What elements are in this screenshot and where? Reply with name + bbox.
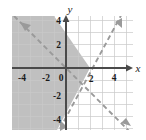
y-tick-label--4: -4 <box>53 115 61 125</box>
y-axis-label: y <box>67 3 73 15</box>
x-tick-label-4: 4 <box>112 73 117 83</box>
coordinate-plane-svg: x y -4 -2 0 2 4 -4 -2 2 4 <box>0 0 146 140</box>
y-tick-label-4: 4 <box>56 16 61 26</box>
y-tick-label-2: 2 <box>56 40 61 50</box>
y-tick-label--2: -2 <box>53 91 61 101</box>
x-tick-label-2: 2 <box>89 74 94 84</box>
graph-figure: x y -4 -2 0 2 4 -4 -2 2 4 <box>0 0 146 140</box>
x-tick-label--2: -2 <box>42 73 50 83</box>
x-axis-label: x <box>135 62 141 74</box>
x-tick-label-0: 0 <box>59 73 64 83</box>
x-tick-label--4: -4 <box>18 73 26 83</box>
